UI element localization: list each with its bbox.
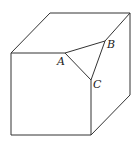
label-a: A [56,55,65,68]
triangle-edge-ab [65,41,105,53]
label-b: B [106,38,115,51]
cube-diagram: A B C [0,0,136,143]
triangle-edge-bc [91,41,105,80]
right-face-bottom-edge [91,95,130,135]
label-c: C [93,78,102,91]
top-face-left-edge [11,13,50,53]
triangle-edge-ca [65,53,91,80]
top-face-right-edge [105,13,130,41]
